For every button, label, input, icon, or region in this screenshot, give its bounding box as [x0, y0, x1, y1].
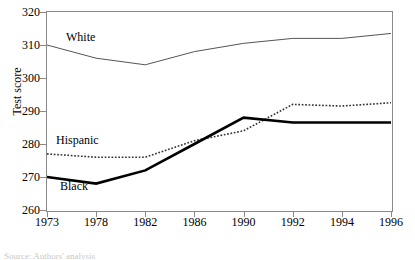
series-lines: [47, 12, 392, 211]
series-line-white: [47, 33, 391, 64]
y-tick-label: 320: [6, 6, 40, 18]
x-tick-label: 1973: [24, 216, 70, 229]
y-axis-title: Test score: [10, 37, 25, 147]
x-tick-label: 1990: [221, 216, 267, 229]
source-note: Source: Authors' analysis: [4, 251, 95, 260]
y-tick-label: 300: [6, 72, 40, 84]
x-tick-label: 1978: [73, 216, 119, 229]
x-tick-label: 1982: [122, 216, 168, 229]
x-tick-label: 1986: [171, 216, 217, 229]
series-label-black: Black: [60, 180, 88, 192]
plot-area: [46, 11, 393, 212]
y-tick-label: 290: [6, 105, 40, 117]
series-label-hispanic: Hispanic: [56, 134, 99, 146]
y-tick-label: 270: [6, 171, 40, 183]
series-line-black: [47, 118, 391, 184]
y-tick-label: 310: [6, 39, 40, 51]
y-tick-label: 280: [6, 138, 40, 150]
chart-figure: Test score 320310300290280270260 1973197…: [0, 0, 415, 260]
x-tick-label: 1994: [319, 216, 365, 229]
x-tick-label: 1992: [270, 216, 316, 229]
x-tick-label: 1996: [368, 216, 414, 229]
series-label-white: White: [66, 31, 95, 43]
